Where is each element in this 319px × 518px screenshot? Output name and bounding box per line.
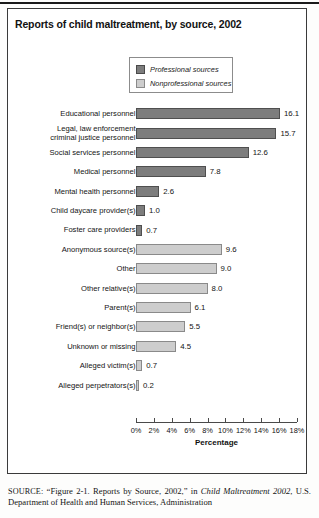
bar-nonprofessional: [136, 244, 222, 255]
chart-title: Reports of child maltreatment, by source…: [15, 18, 295, 30]
legend-item-professional: Professional sources: [136, 62, 232, 76]
source-italic-title: Child Maltreatment 2002: [201, 486, 290, 496]
bar-row: Mental health personnel2.6: [7, 182, 307, 201]
legend-swatch-nonprofessional: [136, 79, 145, 88]
x-axis-tick-label: 6%: [184, 426, 195, 435]
bar-value-label: 9.0: [221, 264, 232, 273]
x-axis-tick: [190, 418, 191, 422]
bar-zone: 0.2: [136, 375, 154, 394]
bar-row: Friend(s) or neighbor(s)5.5: [7, 317, 307, 336]
bar-zone: 0.7: [136, 356, 157, 375]
bar-category-label: Mental health personnel: [12, 187, 136, 196]
x-axis-tick-label: 0%: [131, 426, 142, 435]
x-axis-tick: [136, 418, 137, 422]
bar-zone: 9.6: [136, 240, 237, 259]
x-axis-tick-label: 16%: [272, 426, 287, 435]
x-axis-tick: [225, 418, 226, 422]
x-axis-tick-label: 2%: [149, 426, 160, 435]
x-axis: 0%2%4%6%8%10%12%14%16%18%: [136, 422, 297, 423]
bar-zone: 6.1: [136, 298, 205, 317]
bar-nonprofessional: [136, 263, 217, 274]
bar-value-label: 5.5: [189, 322, 200, 331]
bar-category-label: Medical personnel: [12, 167, 136, 176]
bar-professional: [136, 186, 159, 197]
bar-value-label: 15.7: [280, 129, 295, 138]
bar-row: Foster care providers0.7: [7, 220, 307, 239]
bar-nonprofessional: [136, 302, 191, 313]
bar-category-label: Legal, law enforcement criminal justice …: [12, 124, 136, 142]
bar-nonprofessional: [136, 341, 176, 352]
bar-category-label: Alleged perpetrators(s): [12, 381, 136, 390]
x-axis-tick: [243, 418, 244, 422]
bar-row: Social services personnel12.6: [7, 143, 307, 162]
bar-row: Alleged victim(s)0.7: [7, 356, 307, 375]
bar-category-label: Child daycare provider(s): [12, 206, 136, 215]
x-axis-title: Percentage: [136, 438, 297, 447]
bar-zone: 0.7: [136, 220, 157, 239]
bar-row: Other9.0: [7, 259, 307, 278]
x-axis-tick: [172, 418, 173, 422]
bar-professional: [136, 225, 142, 236]
bar-category-label: Other relative(s): [12, 284, 136, 293]
source-line: “Figure 2-1. Reports by Source, 2002,” i…: [43, 486, 201, 496]
bar-value-label: 2.6: [163, 187, 174, 196]
legend-label-nonprofessional: Nonprofessional sources: [150, 79, 231, 88]
bar-zone: 12.6: [136, 143, 268, 162]
bar-value-label: 7.8: [210, 167, 221, 176]
legend-swatch-professional: [136, 65, 145, 74]
bar-value-label: 8.0: [212, 284, 223, 293]
bar-nonprofessional: [136, 360, 142, 371]
bar-nonprofessional: [136, 380, 139, 391]
source-prefix: SOURCE:: [8, 487, 43, 496]
bar-category-label: Friend(s) or neighbor(s): [12, 322, 136, 331]
bar-zone: 2.6: [136, 182, 174, 201]
bar-nonprofessional: [136, 321, 185, 332]
bar-row: Parent(s)6.1: [7, 298, 307, 317]
bar-value-label: 0.2: [143, 381, 154, 390]
x-axis-tick: [261, 418, 262, 422]
legend-item-nonprofessional: Nonprofessional sources: [136, 76, 232, 90]
bar-professional: [136, 128, 276, 139]
bar-zone: 4.5: [136, 337, 191, 356]
bar-row: Medical personnel7.8: [7, 162, 307, 181]
bar-category-label: Anonymous source(s): [12, 245, 136, 254]
x-axis-tick-label: 14%: [254, 426, 269, 435]
x-axis-tick-label: 12%: [236, 426, 251, 435]
bar-category-label: Foster care providers: [12, 225, 136, 234]
x-axis-tick: [154, 418, 155, 422]
bar-category-label: Other: [12, 264, 136, 273]
bar-category-label: Social services personnel: [12, 148, 136, 157]
bar-zone: 8.0: [136, 279, 222, 298]
bar-value-label: 12.6: [253, 148, 268, 157]
bar-row: Child daycare provider(s)1.0: [7, 201, 307, 220]
x-axis-tick-label: 10%: [218, 426, 233, 435]
bar-row: Unknown or missing4.5: [7, 337, 307, 356]
bar-category-label: Unknown or missing: [12, 342, 136, 351]
bar-value-label: 0.7: [146, 361, 157, 370]
bar-value-label: 0.7: [146, 226, 157, 235]
bar-value-label: 4.5: [180, 342, 191, 351]
bar-row: Educational personnel16.1: [7, 104, 307, 123]
bar-category-label: Parent(s): [12, 303, 136, 312]
bar-value-label: 1.0: [149, 206, 160, 215]
x-axis-tick-label: 4%: [166, 426, 177, 435]
chart-legend: Professional sources Nonprofessional sou…: [129, 57, 233, 93]
bar-zone: 15.7: [136, 123, 296, 142]
bar-zone: 16.1: [136, 104, 299, 123]
bar-category-label: Educational personnel: [12, 109, 136, 118]
bar-value-label: 16.1: [284, 109, 299, 118]
x-axis-tick-label: 8%: [202, 426, 213, 435]
bar-professional: [136, 147, 249, 158]
bar-zone: 7.8: [136, 162, 221, 181]
bar-row: Other relative(s)8.0: [7, 279, 307, 298]
bar-zone: 9.0: [136, 259, 231, 278]
figure-page: Reports of child maltreatment, by source…: [0, 0, 319, 518]
x-axis-tick: [297, 418, 298, 422]
bar-row: Anonymous source(s)9.6: [7, 240, 307, 259]
bar-value-label: 9.6: [226, 245, 237, 254]
page-top-rule: [0, 2, 319, 4]
source-note: SOURCE: “Figure 2-1. Reports by Source, …: [8, 486, 311, 509]
bar-rows: Educational personnel16.1Legal, law enfo…: [7, 104, 307, 395]
bar-professional: [136, 108, 280, 119]
bar-zone: 1.0: [136, 201, 160, 220]
